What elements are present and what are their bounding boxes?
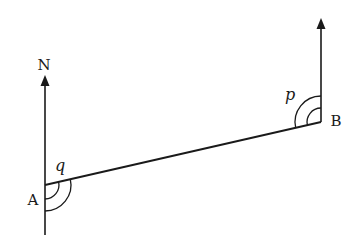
north-arrowhead-a: [41, 75, 50, 86]
point-b-label: B: [330, 112, 341, 130]
segment-ab: [45, 122, 321, 185]
bearing-diagram: N A B q p: [0, 0, 352, 243]
angle-q-label: q: [55, 156, 65, 175]
diagram-svg: N A B q p: [0, 0, 352, 243]
north-label: N: [37, 56, 50, 74]
point-a-label: A: [27, 191, 39, 209]
north-arrowhead-b: [317, 18, 326, 29]
angle-p-label: p: [285, 85, 295, 104]
